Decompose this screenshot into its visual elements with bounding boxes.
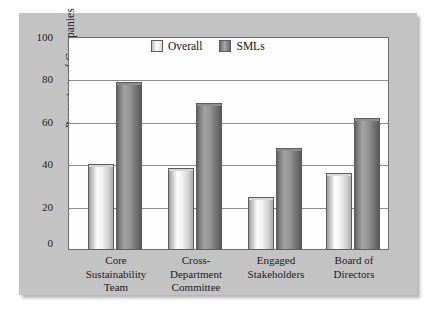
bar-smls-cross-department-committee bbox=[196, 103, 222, 250]
legend-label-smls: SMLs bbox=[236, 40, 264, 52]
bar-cap bbox=[89, 165, 113, 167]
bar-overall-engaged-stakeholders bbox=[248, 197, 274, 250]
chart-panel: Percentage of Companies 100 80 60 40 20 … bbox=[19, 13, 417, 295]
bar-group-cross-department-committee bbox=[164, 37, 228, 250]
y-tick-label-40: 40 bbox=[23, 158, 53, 170]
bar-cap bbox=[355, 119, 379, 121]
bar-overall-cross-department-committee bbox=[168, 168, 194, 250]
y-tick-label-100: 100 bbox=[23, 31, 53, 43]
figure-canvas: Percentage of Companies 100 80 60 40 20 … bbox=[0, 0, 437, 314]
bar-cap bbox=[327, 174, 351, 176]
bar-overall-core-sustainability-team bbox=[88, 164, 114, 250]
legend-swatch-smls-icon bbox=[219, 40, 231, 52]
legend-entry-smls: SMLs bbox=[219, 40, 264, 52]
x-axis-category-labels: Core Sustainability Team Cross- Departme… bbox=[68, 254, 389, 306]
x-label-core-sustainability-team: Core Sustainability Team bbox=[72, 254, 160, 295]
bar-group-core-sustainability-team bbox=[84, 37, 148, 250]
x-label-cross-department-committee: Cross- Department Committee bbox=[152, 254, 240, 295]
bar-cap bbox=[169, 169, 193, 171]
legend-entry-overall: Overall bbox=[151, 40, 202, 52]
bars-layer bbox=[68, 37, 389, 250]
bar-cap bbox=[117, 83, 141, 85]
bar-group-engaged-stakeholders bbox=[244, 37, 308, 250]
bar-cap bbox=[249, 198, 273, 200]
legend: Overall SMLs bbox=[151, 40, 265, 52]
bar-overall-board-of-directors bbox=[326, 173, 352, 250]
x-label-engaged-stakeholders: Engaged Stakeholders bbox=[232, 254, 320, 281]
bar-smls-core-sustainability-team bbox=[116, 82, 142, 250]
y-tick-label-80: 80 bbox=[23, 73, 53, 85]
legend-swatch-overall-icon bbox=[151, 40, 163, 52]
bar-smls-engaged-stakeholders bbox=[276, 148, 302, 250]
x-label-board-of-directors: Board of Directors bbox=[310, 254, 398, 281]
y-tick-label-60: 60 bbox=[23, 116, 53, 128]
y-tick-label-20: 20 bbox=[23, 201, 53, 213]
legend-label-overall: Overall bbox=[168, 40, 202, 52]
bar-cap bbox=[197, 104, 221, 106]
bar-group-board-of-directors bbox=[322, 37, 386, 250]
y-tick-label-0: 0 bbox=[23, 237, 53, 249]
bar-cap bbox=[277, 149, 301, 151]
bar-smls-board-of-directors bbox=[354, 118, 380, 250]
